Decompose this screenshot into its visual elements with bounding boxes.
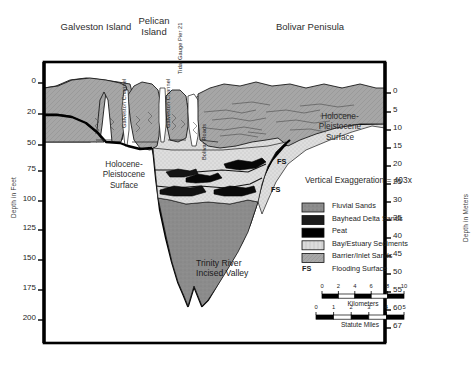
scalebar-0-tick-label-4: 8 [380, 283, 396, 289]
right-axis-tick-label-3: 15 [393, 142, 402, 151]
scalebar-1-tick-label-5: 5 [396, 304, 412, 310]
legend-label-0: Fluvial Sands [332, 202, 376, 210]
right-axis-tick-label-6: 30 [393, 196, 402, 205]
scalebar-1-segment-1 [334, 315, 352, 319]
right-axis-tick-label-0: 0 [393, 87, 397, 96]
right-axis-title: Depth in Meters [462, 194, 469, 242]
legend-label-1: Bayhead Delta Sands [332, 215, 403, 223]
right-axis-tick-label-9: 45 [393, 250, 402, 259]
feature-label-1: Galveston Channel [165, 79, 171, 128]
scalebar-0-segment-0 [322, 294, 338, 298]
legend-swatch-barrier-inlet-sands [302, 253, 324, 262]
right-axis-tick-label-5: 25 [393, 178, 402, 187]
left-axis-tick-label-6: 150 [2, 254, 36, 263]
scalebar-1-segment-2 [351, 315, 369, 319]
legend-label-3: Bay/Estuary Sediments [332, 240, 408, 248]
left-axis-title: Depth in Feet [10, 177, 17, 218]
legend-swatch-fluvial-sands [302, 203, 324, 212]
legend-label-5: Flooding Surface [332, 265, 387, 273]
scalebar-0-tick-label-0: 0 [314, 283, 330, 289]
scalebar-0-tick-label-1: 2 [330, 283, 346, 289]
left-axis-tick-label-8: 200 [2, 314, 36, 323]
scalebar-1-segment-0 [316, 315, 334, 319]
right-axis-tick-label-10: 50 [393, 268, 402, 277]
holocene-pleistocene-label-left: Holocene- Pleistocene Surface [82, 160, 166, 191]
legend-swatches [302, 203, 324, 262]
legend-label-2: Peat [332, 227, 347, 235]
left-axis-tick-label-3: 75 [2, 165, 36, 174]
scalebar-0-segment-1 [338, 294, 354, 298]
legend-prefix-5: FS [302, 265, 311, 273]
left-axis [38, 62, 44, 343]
feature-label-0: Galveston Channel [121, 79, 127, 128]
flooding-surface-marker-0: FS [277, 158, 286, 166]
scalebar-1-tick-label-4: 4 [378, 304, 394, 310]
left-axis-tick-label-1: 20 [2, 108, 36, 117]
legend-swatch-peat [302, 228, 324, 237]
scalebar-1-segment-4 [386, 315, 404, 319]
left-axis-tick-label-7: 175 [2, 284, 36, 293]
scalebar-1-tick-label-3: 3 [361, 304, 377, 310]
holocene-pleistocene-label-right: Holocene- Pleistocene Surface [300, 112, 380, 143]
scalebar-0-tick-label-3: 6 [363, 283, 379, 289]
incised-valley-label: Trinity River Incised Valley [196, 258, 286, 279]
scalebar-0-segment-2 [355, 294, 371, 298]
left-axis-tick-label-5: 125 [2, 224, 36, 233]
feature-label-3: Bolivar Roads [201, 124, 207, 160]
scalebar-0-segment-3 [371, 294, 387, 298]
scalebar-1-segment-3 [369, 315, 387, 319]
left-axis-tick-label-0: 0 [2, 77, 36, 86]
scalebar-1-unit-label: Statute Miles [316, 321, 404, 328]
right-axis-tick-label-1: 5 [393, 106, 397, 115]
legend-label-4: Barrier/Inlet Sands [332, 252, 392, 260]
scalebar-0-tick-label-5: 10 [396, 283, 412, 289]
left-axis-tick-label-2: 50 [2, 139, 36, 148]
scalebar-1-tick-label-1: 1 [326, 304, 342, 310]
scalebar-0-tick-label-2: 4 [347, 283, 363, 289]
place-label-2: Bolivar Penisula [250, 22, 370, 33]
scalebar-1-tick-label-2: 2 [343, 304, 359, 310]
legend-swatch-bay-estuary-sediments [302, 241, 324, 250]
legend-swatch-bayhead-delta-sands [302, 216, 324, 225]
right-axis-tick-label-4: 20 [393, 160, 402, 169]
flooding-surface-marker-1: FS [271, 186, 280, 194]
scalebar-1-tick-label-0: 0 [308, 304, 324, 310]
left-axis-tick-label-4: 100 [2, 195, 36, 204]
right-axis-tick-label-2: 10 [393, 124, 402, 133]
place-label-1: Pelican Island [126, 16, 182, 37]
feature-label-2: Tidal Gauge Pier 21 [177, 23, 183, 74]
